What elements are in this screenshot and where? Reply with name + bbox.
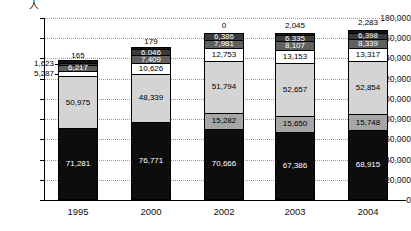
- seg-1995-1-value: 71,281: [59, 160, 97, 168]
- seg-2004-4[interactable]: 13,317: [348, 48, 388, 61]
- seg-2003-4-value: 13,153: [276, 53, 314, 61]
- y-tick-mark: [40, 18, 44, 19]
- seg-2002-2-value: 15,282: [205, 117, 243, 125]
- y-tick-mark: [40, 38, 44, 39]
- seg-2002-3-value: 51,794: [205, 83, 243, 91]
- stacked-bar-chart: 人 180,000160,000140,000120,000100,00080,…: [0, 0, 411, 231]
- seg-2003-3[interactable]: 52,657: [275, 63, 315, 116]
- seg-2003-4[interactable]: 13,153: [275, 50, 315, 63]
- callout-leader-line: [55, 74, 59, 75]
- seg-2002-5[interactable]: 7,981: [204, 40, 244, 48]
- seg-2004-1-value: 68,915: [349, 161, 387, 169]
- y-axis-unit-label: 人: [29, 1, 39, 11]
- x-label-2003: 2003: [260, 207, 330, 217]
- x-axis-line: [44, 200, 406, 201]
- bar-2002-top-label: 0: [192, 22, 256, 30]
- bar-2004-top-label: 2,283: [336, 19, 400, 27]
- seg-2000-4-value: 10,626: [132, 65, 170, 73]
- seg-2003-3-value: 52,657: [276, 86, 314, 94]
- y-tick-mark: [40, 139, 44, 140]
- bar-2000-top-label: 179: [119, 38, 183, 46]
- bar-2002[interactable]: 6,3867,98112,75351,79415,28270,6660: [204, 33, 244, 200]
- bar-1995-top-label: 165: [46, 52, 110, 60]
- seg-2003-5[interactable]: 8,107: [275, 41, 315, 49]
- y-axis-line: [44, 18, 45, 201]
- seg-2000-4[interactable]: 10,626: [131, 63, 171, 74]
- seg-1995-1[interactable]: 71,281: [58, 128, 98, 200]
- x-label-2004: 2004: [333, 207, 403, 217]
- seg-2000-3[interactable]: 48,339: [131, 74, 171, 123]
- seg-2002-3[interactable]: 51,794: [204, 61, 244, 113]
- bar-2003[interactable]: 6,3358,10713,15352,65715,65067,3862,045: [275, 33, 315, 200]
- seg-2004-2[interactable]: 15,748: [348, 114, 388, 130]
- seg-2004-2-value: 15,748: [349, 119, 387, 127]
- seg-1995-4-callout: 5,287: [22, 70, 54, 78]
- seg-2003-1-value: 67,386: [276, 162, 314, 170]
- y-tick-mark: [40, 200, 44, 201]
- seg-2004-1[interactable]: 68,915: [348, 130, 388, 200]
- y-tick-mark: [40, 99, 44, 100]
- seg-2002-1[interactable]: 70,666: [204, 129, 244, 200]
- seg-2002-4-value: 12,753: [205, 51, 243, 59]
- bar-2004[interactable]: 6,3988,33913,31752,85415,74868,9152,283: [348, 30, 388, 200]
- seg-2002-4[interactable]: 12,753: [204, 48, 244, 61]
- x-label-1995: 1995: [43, 207, 113, 217]
- seg-2000-5[interactable]: 7,409: [131, 55, 171, 62]
- bar-2003-top-label: 2,045: [263, 22, 327, 30]
- seg-2000-1[interactable]: 76,771: [131, 122, 171, 200]
- seg-2003-2-value: 15,650: [276, 120, 314, 128]
- seg-1995-3-value: 50,975: [59, 99, 97, 107]
- seg-2004-3[interactable]: 52,854: [348, 61, 388, 114]
- x-label-2000: 2000: [116, 207, 186, 217]
- seg-2002-1-value: 70,666: [205, 160, 243, 168]
- y-tick-mark: [40, 79, 44, 80]
- seg-1995-3[interactable]: 50,975: [58, 76, 98, 128]
- y-tick-mark: [40, 119, 44, 120]
- seg-2000-1-value: 76,771: [132, 157, 170, 165]
- seg-2004-3-value: 52,854: [349, 84, 387, 92]
- bar-1995[interactable]: 6,21750,97571,281165: [58, 60, 98, 200]
- seg-2004-4-value: 13,317: [349, 51, 387, 59]
- y-tick-mark: [40, 160, 44, 161]
- y-tick-mark: [40, 180, 44, 181]
- seg-2000-3-value: 48,339: [132, 94, 170, 102]
- seg-2004-5[interactable]: 8,339: [348, 39, 388, 47]
- seg-1995-6-callout: 1,623: [22, 60, 54, 68]
- bar-2000[interactable]: 6,0467,40910,62648,33976,771179: [131, 47, 171, 200]
- seg-2002-2[interactable]: 15,282: [204, 113, 244, 128]
- callout-leader-line: [55, 64, 59, 65]
- seg-2003-1[interactable]: 67,386: [275, 132, 315, 200]
- x-label-2002: 2002: [189, 207, 259, 217]
- seg-2003-2[interactable]: 15,650: [275, 116, 315, 132]
